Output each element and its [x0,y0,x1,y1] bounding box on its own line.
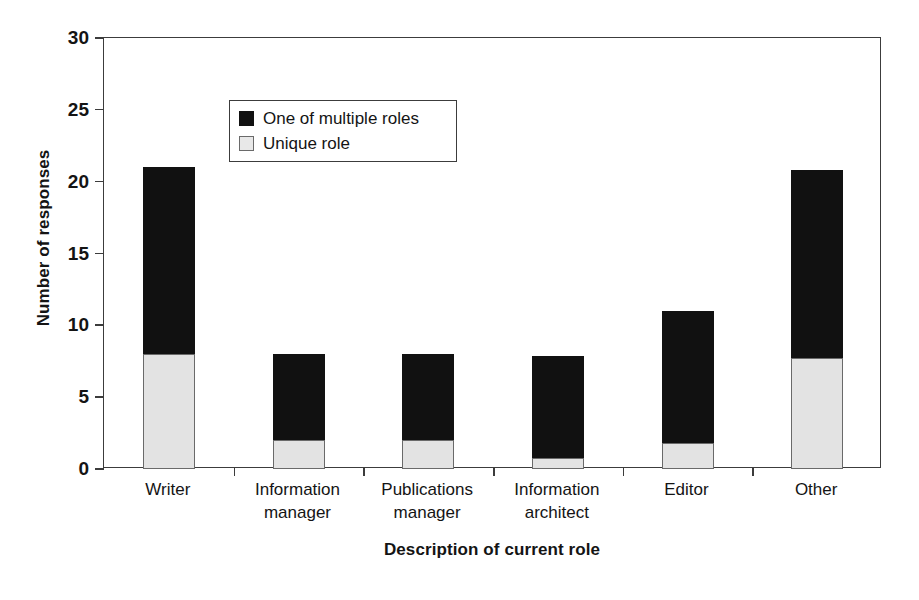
x-category-label-line2: manager [234,501,362,524]
bar-segment-unique-role [532,458,584,469]
y-tick-label: 25 [41,97,89,122]
x-category-label: Informationarchitect [493,478,621,524]
x-category-label-line1: Information [514,480,599,499]
bar-information-architect [532,38,584,469]
plot-area: 051015202530 One of multiple roles Uniqu… [103,37,881,468]
chart-legend: One of multiple roles Unique role [229,100,457,162]
x-category-label-line1: Publications [381,480,473,499]
bar-segment-unique-role [662,443,714,469]
x-category-label: Publicationsmanager [363,478,491,524]
y-tick-mark [95,37,104,39]
x-tick-mark [493,467,495,476]
x-category-label-line2: manager [363,501,491,524]
x-category-label-line1: Editor [664,480,708,499]
y-tick-mark [95,253,104,255]
bar-segment-one-of-multiple-roles [791,170,843,358]
legend-swatch-unique-role [239,136,254,151]
y-tick-mark [95,324,104,326]
y-tick-mark [95,468,104,470]
bar-segment-unique-role [143,354,195,469]
y-tick-mark [95,109,104,111]
bar-segment-one-of-multiple-roles [273,354,325,440]
y-tick-label: 20 [41,169,89,194]
bar-writer [143,38,195,469]
x-axis-title: Description of current role [103,540,881,560]
legend-item-one-of-multiple-roles: One of multiple roles [239,106,448,131]
y-tick-label: 0 [41,456,89,481]
x-tick-mark [623,467,625,476]
bar-segment-unique-role [273,440,325,469]
legend-label-unique-role: Unique role [263,134,350,153]
bar-segment-one-of-multiple-roles [662,311,714,443]
y-tick-mark [95,181,104,183]
legend-item-unique-role: Unique role [239,131,448,156]
bar-segment-one-of-multiple-roles [143,167,195,354]
y-tick-label: 30 [41,25,89,50]
bar-segment-one-of-multiple-roles [532,356,584,458]
x-category-label-line1: Information [255,480,340,499]
legend-label-one-of-multiple-roles: One of multiple roles [263,109,419,128]
x-tick-mark [234,467,236,476]
bar-editor [662,38,714,469]
y-tick-label: 15 [41,241,89,266]
bar-segment-one-of-multiple-roles [402,354,454,440]
x-tick-mark [752,467,754,476]
legend-swatch-one-of-multiple-roles [239,111,254,126]
y-tick-label: 10 [41,312,89,337]
bar-other [791,38,843,469]
x-category-label: Writer [104,478,232,501]
x-category-label-line1: Writer [145,480,190,499]
x-tick-mark [363,467,365,476]
y-tick-label: 5 [41,384,89,409]
bar-segment-unique-role [402,440,454,469]
y-tick-mark [95,396,104,398]
x-category-label: Editor [623,478,751,501]
x-category-label-line1: Other [795,480,838,499]
x-category-label: Other [752,478,880,501]
x-category-label-line2: architect [493,501,621,524]
x-category-label: Informationmanager [234,478,362,524]
bar-segment-unique-role [791,358,843,469]
stacked-bar-chart-figure: Number of responses 051015202530 One of … [0,0,919,600]
